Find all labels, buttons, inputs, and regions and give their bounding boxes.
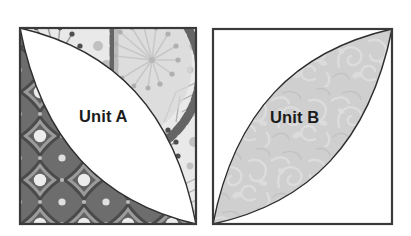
unit-a-block <box>18 26 198 226</box>
unit-a-label: Unit A <box>79 107 128 126</box>
unit-b-label: Unit B <box>270 108 319 127</box>
figure-canvas: Unit A <box>0 0 411 236</box>
